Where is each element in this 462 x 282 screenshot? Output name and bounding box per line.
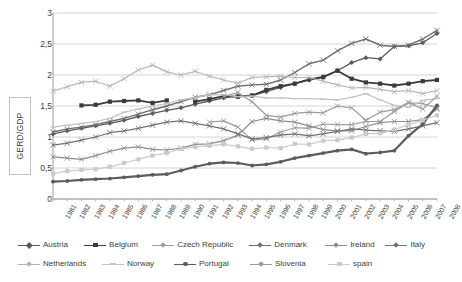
x-tick-label: 2006 (420, 203, 434, 220)
legend-item-austria[interactable]: Austria (18, 241, 84, 250)
legend-key-icon (102, 260, 124, 269)
x-tick-label: 1995 (263, 203, 277, 220)
legend-label: Austria (43, 241, 68, 249)
legend-label: Slovenia (275, 260, 306, 268)
x-tick-label: 1992 (220, 203, 234, 220)
x-tick-label: 1984 (107, 203, 121, 220)
legend-label: Denmark (274, 241, 306, 249)
x-tick-label: 2003 (377, 203, 391, 220)
legend-item-norway[interactable]: Norway (102, 260, 174, 269)
legend-row-2: NetherlandsNorwayPortugalSloveniaspain (18, 255, 434, 273)
legend-item-slovenia[interactable]: Slovenia (250, 260, 328, 269)
legend-label: Czech Republic (177, 241, 233, 249)
legend-item-ireland[interactable]: Ireland (325, 241, 385, 250)
legend-label: Belgium (109, 241, 138, 249)
legend-key-icon (174, 260, 196, 269)
x-tick-label: 2001 (348, 203, 362, 220)
legend-item-belgium[interactable]: Belgium (84, 241, 152, 250)
legend-item-italy[interactable]: Italy (385, 241, 434, 250)
x-tick-label: 1988 (164, 203, 178, 220)
legend-item-spain[interactable]: spain (328, 260, 388, 269)
x-tick-label: 1997 (292, 203, 306, 220)
legend-label: Netherlands (43, 260, 86, 268)
legend-key-icon (250, 260, 272, 269)
x-tick-label: 1993 (235, 203, 249, 220)
x-tick-label: 1985 (121, 203, 135, 220)
y-axis-title: GERD/GDP (9, 97, 31, 175)
x-tick-label: 1986 (135, 203, 149, 220)
legend-key-icon (325, 241, 347, 250)
x-tick-label: 1994 (249, 203, 263, 220)
legend-key-icon (18, 260, 40, 269)
x-tick-label: 1981 (64, 203, 78, 220)
legend-item-denmark[interactable]: Denmark (249, 241, 325, 250)
legend-label: Ireland (350, 241, 374, 249)
x-tick-label: 1990 (192, 203, 206, 220)
legend-label: Norway (127, 260, 154, 268)
x-tick-label: 2008 (448, 203, 462, 220)
legend-row-1: AustriaBelgiumCzech RepublicDenmarkIrela… (18, 236, 434, 254)
chart-legend: AustriaBelgiumCzech RepublicDenmarkIrela… (18, 234, 434, 276)
x-tick-label: 1998 (306, 203, 320, 220)
legend-label: Italy (410, 241, 425, 249)
legend-key-icon (249, 241, 271, 250)
x-tick-label: 1983 (92, 203, 106, 220)
legend-key-icon (385, 241, 407, 250)
legend-item-netherlands[interactable]: Netherlands (18, 260, 102, 269)
x-tick-label: 1991 (206, 203, 220, 220)
x-tick-label: 2005 (405, 203, 419, 220)
x-tick-label: 2004 (391, 203, 405, 220)
x-tick-label: 2000 (334, 203, 348, 220)
x-tick-label: 1982 (78, 203, 92, 220)
x-tick-label: 2007 (434, 203, 448, 220)
x-tick-label: 1989 (178, 203, 192, 220)
x-tick-label: 2002 (363, 203, 377, 220)
legend-label: Portugal (199, 260, 229, 268)
legend-item-czech-republic[interactable]: Czech Republic (152, 241, 249, 250)
legend-key-icon (328, 260, 350, 269)
y-axis-title-label: GERD/GDP (15, 113, 25, 160)
x-tick-label: 1996 (277, 203, 291, 220)
legend-label: spain (353, 260, 372, 268)
legend-item-portugal[interactable]: Portugal (174, 260, 250, 269)
legend-key-icon (152, 241, 174, 250)
x-tick-label: 1999 (320, 203, 334, 220)
legend-key-icon (18, 241, 40, 250)
legend-key-icon (84, 241, 106, 250)
x-tick-label: 1987 (149, 203, 163, 220)
